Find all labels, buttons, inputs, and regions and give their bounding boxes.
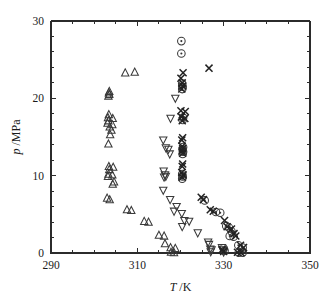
axis-tick-labels: 2903103303500102030 bbox=[33, 15, 319, 271]
y-tick-label: 30 bbox=[33, 15, 45, 27]
x-tick-label: 310 bbox=[129, 259, 147, 271]
point-open-down-triangle bbox=[185, 218, 192, 225]
point-open-down-triangle bbox=[179, 224, 186, 231]
point-open-down-triangle bbox=[167, 115, 174, 122]
x-axis-title-unit: /K bbox=[176, 280, 191, 294]
series-down-triangle bbox=[160, 95, 228, 256]
point-open-down-triangle bbox=[178, 210, 185, 217]
y-tick-label: 10 bbox=[33, 170, 45, 182]
point-open-up-triangle bbox=[105, 140, 112, 147]
point-open-up-triangle bbox=[122, 69, 129, 76]
x-axis-title: T /K bbox=[170, 280, 192, 294]
series-up-triangle bbox=[103, 68, 179, 256]
point-circle-with-dot-center bbox=[180, 52, 182, 54]
point-open-down-triangle bbox=[160, 187, 167, 194]
plot-frame bbox=[51, 21, 310, 253]
point-open-up-triangle bbox=[131, 68, 138, 75]
point-open-down-triangle bbox=[194, 230, 201, 237]
point-open-down-triangle bbox=[166, 197, 173, 204]
axis-ticks bbox=[51, 21, 310, 253]
point-open-up-triangle bbox=[161, 240, 168, 247]
chart-figure: 2903103303500102030 T /Kp /MPa bbox=[0, 0, 329, 299]
point-open-down-triangle bbox=[160, 137, 167, 144]
y-axis-title-symbol: p bbox=[9, 149, 23, 156]
point-circle-with-dot-center bbox=[180, 40, 182, 42]
data-markers bbox=[103, 37, 247, 256]
x-tick-label: 290 bbox=[42, 259, 60, 271]
x-tick-label: 330 bbox=[215, 259, 233, 271]
series-cross bbox=[177, 65, 247, 256]
scatter-plot-canvas: 2903103303500102030 T /Kp /MPa bbox=[0, 0, 329, 299]
x-tick-label: 350 bbox=[301, 259, 319, 271]
point-open-up-triangle bbox=[106, 131, 113, 138]
y-axis-title: p /MPa bbox=[9, 119, 23, 156]
y-axis-title-unit: /MPa bbox=[9, 119, 23, 149]
y-tick-label: 20 bbox=[33, 92, 45, 104]
plot-frame-path bbox=[51, 21, 310, 253]
point-circle-with-dot-center bbox=[219, 212, 221, 214]
point-open-down-triangle bbox=[172, 95, 179, 102]
y-tick-label: 0 bbox=[38, 247, 44, 259]
